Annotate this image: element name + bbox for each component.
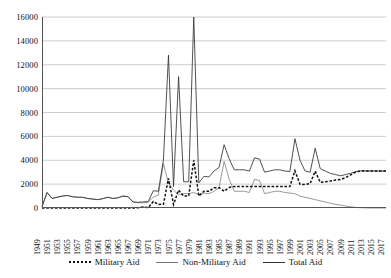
aid-line-chart: 1600014000120001000080006000400020000 19… (0, 0, 391, 278)
y-axis-tick-label: 2000 (21, 179, 38, 189)
legend-item[interactable]: Military Aid (69, 257, 140, 267)
legend-label: Non-Military Aid (182, 257, 245, 267)
y-axis-tick-label: 0 (34, 203, 38, 213)
y-axis-tick-label: 8000 (21, 108, 38, 118)
y-axis-tick-label: 4000 (21, 155, 38, 165)
y-axis-tick-label: 6000 (21, 131, 38, 141)
x-axis-labels: 1949195119531955195719591961196319651967… (42, 210, 386, 256)
y-axis-tick-label: 10000 (16, 84, 38, 94)
legend-swatch-icon (69, 261, 91, 263)
plot-area (42, 17, 386, 208)
y-axis-tick-label: 16000 (16, 12, 38, 22)
legend-label: Military Aid (95, 257, 140, 267)
y-axis-tick-label: 14000 (16, 36, 38, 46)
legend-swatch-icon (156, 262, 178, 263)
legend-item[interactable]: Non-Military Aid (156, 257, 245, 267)
legend-item[interactable]: Total Aid (263, 257, 323, 267)
legend-swatch-icon (263, 262, 285, 263)
y-axis-tick-label: 12000 (16, 60, 38, 70)
legend-label: Total Aid (289, 257, 323, 267)
chart-legend: Military AidNon-Military AidTotal Aid (0, 252, 391, 272)
y-axis-labels: 1600014000120001000080006000400020000 (0, 17, 38, 208)
axis-lines (42, 17, 386, 208)
